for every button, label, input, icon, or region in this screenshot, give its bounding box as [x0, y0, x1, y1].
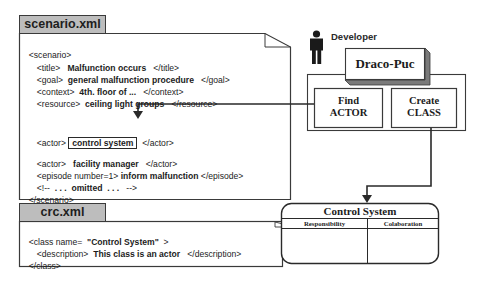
create-class-label-line1: Create: [392, 95, 456, 107]
create-class-label-line2: CLASS: [392, 107, 456, 119]
crc-card-column-responsibility: Responsibility: [282, 219, 367, 228]
create-class-button[interactable]: Create CLASS: [392, 95, 456, 119]
find-actor-label-line1: Find: [315, 95, 382, 107]
crc-line: </class>: [24, 248, 61, 272]
crc-file-tab: crc.xml: [19, 203, 106, 222]
arrowhead-down-icon: [362, 195, 372, 203]
find-actor-button[interactable]: Find ACTOR: [315, 95, 382, 119]
crc-file-tab-label: crc.xml: [41, 205, 85, 219]
find-actor-label-line2: ACTOR: [315, 107, 382, 119]
scenario-file-tab: scenario.xml: [19, 15, 106, 34]
scenario-file-tab-label: scenario.xml: [24, 17, 100, 31]
create-class-arrow-line: [367, 128, 431, 196]
crc-line: <description> This class is an actor </d…: [32, 236, 241, 260]
person-icon: [310, 30, 323, 64]
tool-name: Draco-Puc: [346, 55, 424, 73]
developer-label: Developer: [331, 31, 377, 42]
scenario-line: <resource> ceiling light groups </resour…: [32, 86, 217, 110]
crc-card-column-collaboration: Colaboration: [368, 219, 438, 228]
crc-card-title: Control System: [282, 205, 438, 218]
